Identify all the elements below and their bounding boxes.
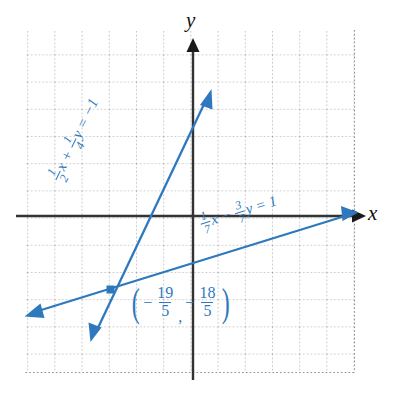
solution-x-coordinate: − 19 5 bbox=[143, 286, 176, 321]
steep-operator: + bbox=[57, 148, 76, 164]
grid bbox=[26, 30, 355, 373]
y-axis-label: y bbox=[186, 10, 195, 31]
solution-y-coordinate: − 18 5 bbox=[185, 286, 218, 321]
close-paren: ) bbox=[222, 287, 230, 320]
steep-equals: = bbox=[73, 115, 92, 131]
shallow-operator: − bbox=[219, 206, 233, 224]
solution-point-label: ( − 19 5 , − 18 5 ) bbox=[129, 286, 233, 321]
coordinate-plane-svg bbox=[0, 0, 393, 416]
fraction-eighteen-fifths: 18 5 bbox=[197, 285, 217, 320]
intersection-point-marker bbox=[107, 286, 115, 294]
linear-system-graph-figure: y x 1 2 x + 1 4 y = −1 1 7 x − 3 7 y = 1… bbox=[0, 0, 393, 416]
x-sign: − bbox=[143, 295, 152, 311]
open-paren: ( bbox=[132, 287, 140, 320]
y-sign: − bbox=[185, 295, 194, 311]
shallow-equals: = bbox=[253, 196, 267, 214]
x-axis-label: x bbox=[368, 203, 377, 224]
fraction-nineteen-fifths: 19 5 bbox=[155, 285, 175, 320]
coordinate-comma: , bbox=[178, 309, 182, 325]
